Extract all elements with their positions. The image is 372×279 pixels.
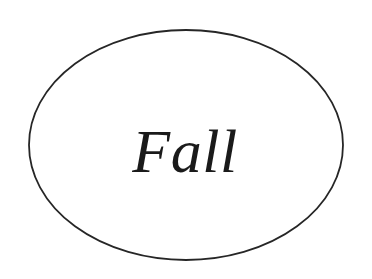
ellipse-label: Fall xyxy=(131,117,237,185)
figure-canvas: Fall xyxy=(0,0,372,279)
ellipse-diagram: Fall xyxy=(0,0,372,279)
